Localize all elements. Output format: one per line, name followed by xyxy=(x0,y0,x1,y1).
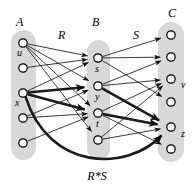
edge-a4-y xyxy=(27,90,88,116)
node-c2[interactable] xyxy=(167,53,175,61)
node-c6[interactable] xyxy=(167,145,175,153)
node-label-u: u xyxy=(17,47,22,58)
node-label-t: t xyxy=(96,118,99,129)
relation-label-RS: R*S xyxy=(86,169,106,183)
node-a3-x[interactable] xyxy=(19,89,27,97)
set-label-C: C xyxy=(168,6,177,20)
edge-x-t xyxy=(28,94,85,109)
edge-u-s xyxy=(28,44,88,56)
diagram-canvas: uxsytvzABCRSR*S xyxy=(0,0,195,190)
relation-label-R: R xyxy=(57,28,66,42)
node-label-y: y xyxy=(94,91,100,102)
node-c4[interactable] xyxy=(167,98,175,106)
node-b1-s[interactable] xyxy=(94,54,102,62)
set-label-B: B xyxy=(92,15,100,29)
edge-t-c3 xyxy=(102,84,161,111)
edge-b4-z xyxy=(103,129,161,139)
node-label-v: v xyxy=(181,79,186,90)
column-C xyxy=(158,22,184,162)
edge-x-y xyxy=(28,87,85,92)
relation-label-S: S xyxy=(133,28,139,42)
node-b3-t[interactable] xyxy=(94,109,102,117)
edge-s-c2 xyxy=(103,57,161,58)
node-label-z: z xyxy=(180,128,185,139)
node-b2-y[interactable] xyxy=(94,82,102,90)
node-b4[interactable] xyxy=(94,136,102,144)
node-label-x: x xyxy=(14,97,20,108)
set-label-A: A xyxy=(15,15,24,29)
node-c5-z[interactable] xyxy=(167,123,175,131)
node-label-s: s xyxy=(95,63,99,74)
node-c3-v[interactable] xyxy=(167,75,175,83)
edge-a4-t xyxy=(28,114,88,118)
edge-s-c4 xyxy=(102,60,162,96)
node-a4[interactable] xyxy=(19,114,27,122)
relation-composition-diagram: uxsytvzABCRSR*S xyxy=(0,0,195,190)
node-c1[interactable] xyxy=(167,31,175,39)
edge-s-c1 xyxy=(103,38,161,56)
node-a1-u[interactable] xyxy=(19,39,27,47)
node-a2[interactable] xyxy=(19,64,27,72)
node-a5[interactable] xyxy=(19,139,27,147)
